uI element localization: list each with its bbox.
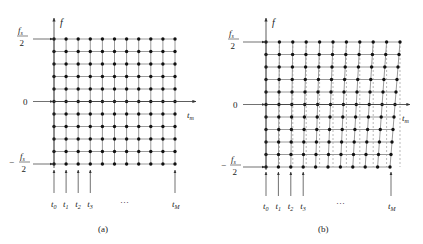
- svg-text:tM: tM: [388, 201, 397, 212]
- svg-text:t0: t0: [263, 201, 269, 212]
- svg-text:fs: fs: [20, 151, 26, 162]
- panel-b-ellipsis: ···: [336, 198, 345, 208]
- svg-text:2: 2: [22, 164, 27, 174]
- svg-text:2: 2: [231, 41, 236, 51]
- panel-a-neg-fs2-label: − fs 2: [9, 151, 30, 174]
- panel-b-zero-label: 0: [233, 100, 238, 110]
- panel-b-time-arrows: [266, 172, 391, 196]
- svg-text:2: 2: [233, 167, 238, 177]
- panel-b-fs2-label: fs 2: [228, 28, 239, 51]
- panel-b-tm-label: tm: [402, 113, 410, 124]
- svg-text:t2: t2: [75, 199, 81, 210]
- panel-b-caption: (b): [318, 224, 329, 234]
- panel-b-f-label: f: [272, 17, 276, 28]
- panel-b: f tm fs 2 0 − fs 2 t0t1t2t3tM ··· (b): [221, 17, 410, 234]
- svg-text:fs: fs: [229, 28, 235, 39]
- svg-text:−: −: [221, 160, 226, 170]
- svg-text:t3: t3: [300, 201, 306, 212]
- svg-text:fs: fs: [18, 25, 24, 36]
- svg-text:t2: t2: [288, 201, 294, 212]
- svg-text:fs: fs: [231, 154, 237, 165]
- panel-a-ellipsis: ···: [120, 197, 129, 207]
- panel-a: f tm fs 2 0 − fs 2 t0t1t2t3tM ··· (a): [9, 17, 196, 234]
- svg-text:2: 2: [20, 38, 25, 48]
- svg-text:t1: t1: [275, 201, 281, 212]
- svg-text:t3: t3: [87, 199, 93, 210]
- svg-text:t1: t1: [63, 199, 69, 210]
- panel-a-fs2-label: fs 2: [17, 25, 28, 48]
- panel-b-neg-fs2-label: − fs 2: [221, 154, 241, 177]
- panel-a-f-label: f: [60, 17, 64, 28]
- svg-text:−: −: [9, 157, 14, 167]
- figure-canvas: f tm fs 2 0 − fs 2 t0t1t2t3tM ··· (a) f …: [0, 0, 423, 244]
- svg-text:t0: t0: [51, 199, 57, 210]
- panel-a-tm-label: tm: [187, 110, 195, 121]
- panel-b-time-labels: t0t1t2t3tM: [263, 201, 397, 212]
- panel-a-time-arrows: [54, 170, 175, 193]
- panel-a-zero-label: 0: [23, 97, 28, 107]
- panel-a-caption: (a): [98, 224, 108, 234]
- panel-a-time-labels: t0t1t2t3tM: [51, 199, 181, 210]
- svg-text:tM: tM: [172, 199, 181, 210]
